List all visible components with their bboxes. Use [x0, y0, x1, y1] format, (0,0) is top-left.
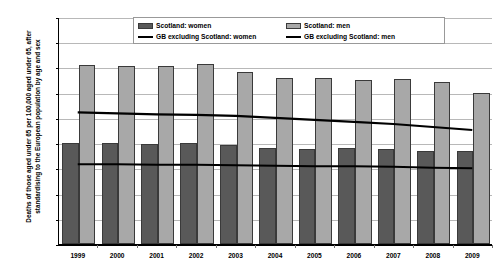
bar-men	[237, 72, 254, 244]
bar-group	[62, 18, 95, 244]
x-tick-mark	[413, 245, 414, 248]
y-tick-mark	[56, 119, 59, 120]
y-tick-mark	[56, 245, 59, 246]
bar-women	[62, 143, 79, 244]
legend-entry-gb-women: GB excluding Scotland: women	[138, 33, 286, 40]
bar-swatch-dark-icon	[138, 23, 153, 29]
bar-men	[158, 66, 175, 244]
bar-swatch-light-icon	[286, 23, 301, 29]
bar-men	[355, 80, 372, 244]
bar-men	[315, 78, 332, 244]
bar-group	[180, 18, 213, 244]
bar-women	[299, 149, 316, 244]
line-swatch-icon	[286, 36, 301, 38]
bar-men	[79, 65, 96, 244]
x-tick-mark	[176, 245, 177, 248]
x-tick-label: 2007	[386, 252, 401, 259]
legend-entry-scotland-women: Scotland: women	[138, 22, 286, 29]
x-tick-label: 2000	[110, 252, 125, 259]
bar-women	[180, 143, 197, 244]
y-tick-mark	[56, 169, 59, 170]
bar-group	[220, 18, 253, 244]
bar-women	[338, 148, 355, 244]
x-tick-mark	[137, 245, 138, 248]
bar-men	[197, 64, 214, 244]
bar-women	[102, 143, 119, 244]
bar-group	[457, 18, 490, 244]
chart-container: Deaths of those aged under 65 per 100,00…	[0, 0, 504, 269]
x-tick-label: 2002	[189, 252, 204, 259]
y-tick-mark	[56, 43, 59, 44]
bar-group	[141, 18, 174, 244]
x-tick-mark	[255, 245, 256, 248]
bar-men	[276, 78, 293, 244]
legend-label: GB excluding Scotland: women	[156, 33, 256, 40]
legend-row-1: Scotland: women Scotland: men	[138, 20, 444, 31]
x-tick-label: 2004	[268, 252, 283, 259]
x-tick-mark	[453, 245, 454, 248]
bar-group	[378, 18, 411, 244]
plot-area: 050100150200250300350400450	[58, 18, 492, 245]
x-tick-label: 2009	[465, 252, 480, 259]
x-tick-mark	[374, 245, 375, 248]
legend-row-2: GB excluding Scotland: women GB excludin…	[138, 31, 444, 42]
y-tick-mark	[56, 68, 59, 69]
y-tick-mark	[56, 18, 59, 19]
bar-women	[417, 151, 434, 244]
y-axis-title: Deaths of those aged under 65 per 100,00…	[25, 19, 42, 234]
bar-group	[259, 18, 292, 244]
line-swatch-icon	[138, 36, 153, 38]
bar-men	[473, 93, 490, 244]
gridline	[59, 245, 492, 246]
bar-group	[102, 18, 135, 244]
legend-label: Scotland: women	[156, 22, 211, 29]
legend-entry-scotland-men: Scotland: men	[286, 22, 350, 29]
bar-women	[457, 151, 474, 244]
bar-men	[394, 79, 411, 244]
legend-label: GB excluding Scotland: men	[304, 33, 395, 40]
x-tick-mark	[295, 245, 296, 248]
x-tick-mark	[492, 245, 493, 248]
chart-legend: Scotland: women Scotland: men GB excludi…	[133, 17, 445, 44]
legend-label: Scotland: men	[304, 22, 350, 29]
bar-women	[220, 145, 237, 244]
bar-men	[118, 66, 135, 244]
y-tick-mark	[56, 220, 59, 221]
bar-men	[434, 82, 451, 244]
x-tick-label: 1999	[70, 252, 85, 259]
y-tick-mark	[56, 94, 59, 95]
legend-entry-gb-men: GB excluding Scotland: men	[286, 33, 395, 40]
x-tick-label: 2008	[425, 252, 440, 259]
bar-group	[338, 18, 371, 244]
x-tick-label: 2005	[307, 252, 322, 259]
bar-women	[259, 148, 276, 244]
x-tick-mark	[216, 245, 217, 248]
y-tick-mark	[56, 195, 59, 196]
bar-group	[299, 18, 332, 244]
x-tick-mark	[97, 245, 98, 248]
y-tick-mark	[56, 144, 59, 145]
bar-women	[141, 144, 158, 244]
bar-women	[378, 149, 395, 244]
x-tick-label: 2001	[149, 252, 164, 259]
x-tick-mark	[334, 245, 335, 248]
x-tick-label: 2003	[228, 252, 243, 259]
bar-group	[417, 18, 450, 244]
x-tick-label: 2006	[347, 252, 362, 259]
